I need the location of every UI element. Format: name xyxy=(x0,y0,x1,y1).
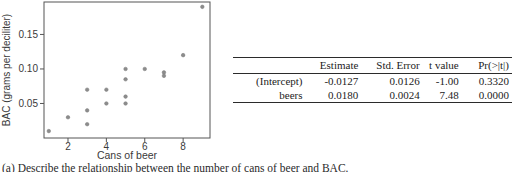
scatter-point xyxy=(105,102,109,106)
cell-beers-t-value: 7.48 xyxy=(423,88,462,103)
scatter-point xyxy=(105,88,109,92)
cell-intercept-std-error: 0.0126 xyxy=(361,74,422,89)
y-tick-label: 0.05 xyxy=(19,98,39,109)
scatter-point xyxy=(85,109,89,113)
figure-caption: (a) Describe the relationship between th… xyxy=(2,162,514,172)
cell-beers-p-value: 0.0000 xyxy=(462,88,512,103)
y-tick-label: 0.15 xyxy=(19,29,39,40)
scatter-plot: 24680.050.100.15Cans of beerBAC (grams p… xyxy=(0,0,230,162)
cell-beers-std-error: 0.0024 xyxy=(361,88,422,103)
scatter-point xyxy=(181,53,185,57)
scatter-point xyxy=(124,67,128,71)
cell-intercept-t-value: -1.00 xyxy=(423,74,462,89)
table-row-intercept: (Intercept) -0.0127 0.0126 -1.00 0.3320 xyxy=(233,74,512,89)
regression-table: Estimate Std. Error t value Pr(>|t|) (In… xyxy=(233,57,512,103)
x-axis-label: Cans of beer xyxy=(97,149,158,161)
scatter-point xyxy=(124,102,128,106)
cell-beers-estimate: 0.0180 xyxy=(306,88,362,103)
regression-table-wrap: Estimate Std. Error t value Pr(>|t|) (In… xyxy=(233,57,512,103)
scatter-point xyxy=(162,71,166,75)
col-header-p-value: Pr(>|t|) xyxy=(462,58,512,74)
row-label-beers: beers xyxy=(233,88,306,103)
x-tick-label: 2 xyxy=(65,141,71,152)
col-header-term xyxy=(233,58,306,74)
col-header-estimate: Estimate xyxy=(306,58,362,74)
table-header-row: Estimate Std. Error t value Pr(>|t|) xyxy=(233,58,512,74)
scatter-point xyxy=(124,78,128,82)
scatter-point xyxy=(66,115,70,119)
scatter-point xyxy=(162,74,166,78)
figure-beers-bac: 24680.050.100.15Cans of beerBAC (grams p… xyxy=(0,0,516,172)
scatter-point xyxy=(85,122,89,126)
x-tick-label: 8 xyxy=(180,141,186,152)
col-header-t-value: t value xyxy=(423,58,462,74)
scatter-point xyxy=(47,129,51,133)
col-header-std-error: Std. Error xyxy=(361,58,422,74)
y-axis-label: BAC (grams per deciliter) xyxy=(1,14,12,126)
row-label-intercept: (Intercept) xyxy=(233,74,306,89)
scatter-point xyxy=(143,67,147,71)
table-row-beers: beers 0.0180 0.0024 7.48 0.0000 xyxy=(233,88,512,103)
cell-intercept-estimate: -0.0127 xyxy=(306,74,362,89)
y-tick-label: 0.10 xyxy=(19,63,39,74)
scatter-point xyxy=(124,95,128,99)
cell-intercept-p-value: 0.3320 xyxy=(462,74,512,89)
scatter-point xyxy=(201,5,205,9)
scatter-point xyxy=(85,88,89,92)
